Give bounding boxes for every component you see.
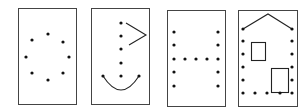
dot — [290, 52, 293, 55]
dot — [61, 71, 64, 74]
dot — [137, 74, 140, 77]
dot — [30, 38, 33, 41]
dot — [216, 30, 219, 33]
dot — [216, 57, 219, 60]
dot — [290, 39, 293, 42]
dot — [172, 84, 175, 87]
dot — [183, 57, 186, 60]
dot — [194, 57, 197, 60]
dot — [253, 91, 256, 94]
dot — [172, 30, 175, 33]
dot — [46, 32, 49, 35]
dot — [241, 65, 244, 68]
dot — [205, 57, 208, 60]
dot — [290, 27, 293, 30]
dot — [265, 91, 268, 94]
dot — [216, 84, 219, 87]
dot — [119, 47, 122, 50]
dot — [172, 57, 175, 60]
dot — [241, 52, 244, 55]
dot — [290, 91, 293, 94]
dot — [67, 55, 70, 58]
card-letter-h — [168, 11, 226, 107]
dot — [172, 43, 175, 46]
dot — [119, 61, 122, 64]
dot — [119, 34, 122, 37]
dot — [241, 78, 244, 81]
card-house — [239, 11, 298, 107]
dot — [61, 40, 64, 43]
card-circle — [19, 9, 77, 105]
dot — [119, 21, 122, 24]
dot — [119, 74, 122, 77]
dot — [46, 78, 49, 81]
dot — [172, 70, 175, 73]
dot-pattern-figure — [0, 0, 307, 111]
dot — [216, 43, 219, 46]
dot — [241, 39, 244, 42]
card-stick-figure — [92, 9, 150, 105]
dot — [290, 65, 293, 68]
dot — [24, 55, 27, 58]
dot — [216, 70, 219, 73]
dot — [241, 27, 244, 30]
dot — [278, 91, 281, 94]
dot — [30, 71, 33, 74]
dot — [290, 78, 293, 81]
dot — [101, 74, 104, 77]
dot — [241, 91, 244, 94]
